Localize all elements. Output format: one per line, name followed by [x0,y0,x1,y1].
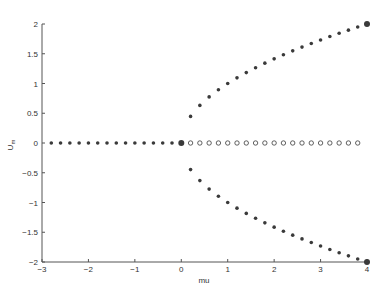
dot-marker [217,88,221,92]
x-tick-label: 0 [179,265,184,274]
dot-marker [337,31,341,35]
x-tick-label: 2 [272,265,277,274]
svg-text:Um: Um [6,140,16,151]
dot-marker [319,38,323,42]
dot-marker [319,244,323,248]
bifurcation-chart: −3−2−101234−2−1.5−1−0.500.511.52 mu Um [0,0,388,291]
dot-marker [282,229,286,233]
x-tick-label: 4 [365,265,370,274]
open-circle-marker [346,141,350,145]
open-circle-marker [272,141,276,145]
dot-marker [263,221,267,225]
dot-marker [254,216,258,220]
y-tick-label: −1 [29,199,39,208]
open-circle-marker [328,141,332,145]
dot-marker [244,71,248,75]
dot-marker [189,168,193,172]
x-tick-label: −2 [84,265,94,274]
y-tick-label: −0.5 [22,169,38,178]
dot-marker [244,212,248,216]
open-circle-marker [253,141,257,145]
y-tick-label: 1.5 [27,50,39,59]
x-tick-label: 3 [318,265,323,274]
dot-marker [152,141,156,145]
dot-marker [235,206,239,210]
dot-marker [87,141,91,145]
open-circle-marker [318,141,322,145]
large-dot-marker [364,259,370,265]
open-circle-marker [291,141,295,145]
large-dot-marker [364,21,370,27]
open-circle-marker [300,141,304,145]
dot-marker [226,82,230,86]
y-tick-label: 1 [34,80,39,89]
dot-marker [272,225,276,229]
dot-marker [142,141,146,145]
open-circle-marker [226,141,230,145]
dot-marker [235,76,239,80]
dot-marker [170,141,174,145]
dot-marker [300,45,304,49]
open-circle-marker [235,141,239,145]
open-circle-marker [244,141,248,145]
dot-marker [207,187,211,191]
y-axis-label: Um [6,140,16,151]
dot-marker [291,49,295,53]
dot-marker [328,35,332,39]
dot-marker [300,237,304,241]
dot-marker [198,104,202,108]
dot-marker [124,141,128,145]
data-points [49,21,370,265]
x-tick-label: 1 [225,265,230,274]
open-circle-marker [356,141,360,145]
dot-marker [114,141,118,145]
dot-marker [309,241,313,245]
dot-marker [189,115,193,119]
open-circle-marker [216,141,220,145]
dot-marker [161,141,165,145]
dot-marker [356,25,360,29]
dot-marker [105,141,109,145]
dot-marker [133,141,137,145]
open-circle-marker [263,141,267,145]
open-circle-marker [198,141,202,145]
y-tick-label: −1.5 [22,228,38,237]
open-circle-marker [337,141,341,145]
x-tick-label: −3 [37,265,47,274]
dot-marker [254,66,258,70]
dot-marker [59,141,63,145]
y-tick-label: 0.5 [27,109,39,118]
dot-marker [347,254,351,258]
dot-marker [198,179,202,183]
y-tick-label: 2 [34,20,39,29]
y-tick-label: 0 [34,139,39,148]
dot-marker [309,42,313,46]
dot-marker [217,194,221,198]
dot-marker [328,248,332,252]
dot-marker [291,233,295,237]
dot-marker [356,257,360,261]
large-dot-marker [178,140,184,146]
axes: −3−2−101234−2−1.5−1−0.500.511.52 [22,20,370,274]
open-circle-marker [188,141,192,145]
dot-marker [263,61,267,65]
dot-marker [68,141,72,145]
dot-marker [49,141,53,145]
dot-marker [347,28,351,32]
dot-marker [207,95,211,99]
dot-marker [96,141,100,145]
dot-marker [337,251,341,255]
dot-marker [77,141,81,145]
open-circle-marker [281,141,285,145]
open-circle-marker [207,141,211,145]
y-tick-label: −2 [29,258,39,267]
x-tick-label: −1 [130,265,140,274]
dot-marker [282,53,286,57]
open-circle-marker [309,141,313,145]
dot-marker [226,201,230,205]
x-axis-label: mu [198,276,209,285]
dot-marker [272,57,276,61]
